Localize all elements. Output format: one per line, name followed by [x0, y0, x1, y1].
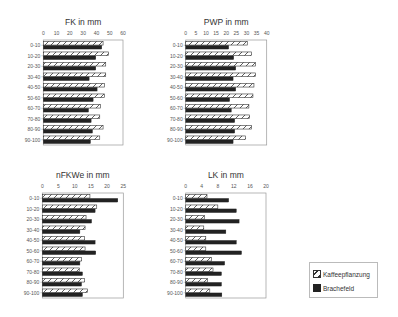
bar-kaffeepflanzung — [186, 205, 218, 209]
bar-brachefeld — [42, 293, 82, 297]
legend: Kaffeepflanzung Brachefeld — [309, 262, 378, 298]
x-tick-label: 15 — [213, 30, 219, 36]
bar-brachefeld — [42, 261, 80, 265]
x-tick-label: 10 — [54, 30, 60, 36]
bar-brachefeld — [43, 77, 89, 81]
y-tick-label: 20-30 — [170, 216, 183, 222]
y-tick-label: 10-20 — [170, 53, 183, 59]
bar-kaffeepflanzung — [186, 289, 210, 293]
x-tick-label: 30 — [244, 30, 250, 36]
chart-title: PWP in mm — [204, 17, 249, 27]
bar-brachefeld — [186, 140, 233, 144]
bar-kaffeepflanzung — [186, 278, 208, 282]
y-tick-label: 0-10 — [29, 195, 39, 201]
bar-kaffeepflanzung — [186, 41, 248, 45]
x-tick-label: 5 — [194, 30, 197, 36]
y-tick-label: 20-30 — [170, 63, 183, 69]
bar-kaffeepflanzung — [43, 41, 103, 45]
y-tick-label: 80-90 — [27, 279, 40, 285]
bar-brachefeld — [42, 272, 82, 276]
y-tick-label: 30-40 — [28, 74, 41, 80]
y-tick-label: 50-60 — [170, 248, 183, 254]
bar-brachefeld — [186, 261, 225, 265]
y-tick-label: 0-10 — [173, 42, 183, 48]
x-tick-label: 20 — [223, 30, 229, 36]
x-tick-label: 0 — [42, 30, 45, 36]
bar-brachefeld — [43, 119, 91, 123]
y-tick-label: 60-70 — [28, 105, 41, 111]
x-tick-label: 0 — [41, 183, 44, 189]
bar-kaffeepflanzung — [42, 215, 86, 219]
y-tick-label: 0-10 — [30, 42, 40, 48]
bar-brachefeld — [43, 87, 97, 91]
bar-kaffeepflanzung — [43, 115, 99, 119]
x-tick-label: 50 — [107, 30, 113, 36]
bar-brachefeld — [186, 209, 237, 213]
bar-brachefeld — [43, 98, 93, 102]
bar-kaffeepflanzung — [186, 136, 246, 140]
y-tick-label: 90-100 — [167, 290, 183, 296]
y-tick-label: 80-90 — [28, 126, 41, 132]
bar-brachefeld — [186, 56, 234, 60]
y-tick-label: 30-40 — [170, 74, 183, 80]
y-tick-label: 30-40 — [170, 227, 183, 233]
bar-brachefeld — [42, 219, 91, 223]
chart-panel: PWP in mm05101520253035400-1010-2020-303… — [167, 17, 270, 145]
bar-kaffeepflanzung — [43, 83, 104, 87]
bar-kaffeepflanzung — [43, 62, 105, 66]
bar-kaffeepflanzung — [43, 52, 108, 56]
bar-kaffeepflanzung — [43, 125, 103, 129]
legend-label: Kaffeepflanzung — [323, 271, 370, 278]
y-tick-label: 80-90 — [170, 279, 183, 285]
y-tick-label: 90-100 — [25, 137, 41, 143]
bar-kaffeepflanzung — [43, 73, 105, 77]
bar-kaffeepflanzung — [42, 289, 87, 293]
bar-brachefeld — [42, 240, 95, 244]
chart-title: LK in mm — [208, 170, 244, 180]
chart-panel: nFKWe in mm05101520250-1010-2020-3030-40… — [24, 170, 127, 298]
bar-kaffeepflanzung — [186, 115, 250, 119]
bar-kaffeepflanzung — [186, 194, 207, 198]
bar-kaffeepflanzung — [186, 226, 204, 230]
bar-brachefeld — [186, 219, 239, 223]
y-tick-label: 10-20 — [28, 53, 41, 59]
bar-kaffeepflanzung — [186, 94, 253, 98]
y-tick-label: 20-30 — [28, 63, 41, 69]
x-tick-label: 20 — [67, 30, 73, 36]
y-tick-label: 70-80 — [170, 116, 183, 122]
y-tick-label: 40-50 — [27, 237, 40, 243]
bar-brachefeld — [43, 140, 90, 144]
bar-brachefeld — [186, 77, 233, 81]
x-tick-label: 0 — [184, 30, 187, 36]
x-tick-label: 20 — [263, 183, 269, 189]
y-tick-label: 70-80 — [28, 116, 41, 122]
bar-brachefeld — [43, 56, 95, 60]
x-tick-label: 30 — [80, 30, 86, 36]
chart-panel: LK in mm0481216200-1010-2020-3030-4040-5… — [167, 170, 269, 298]
bar-kaffeepflanzung — [42, 268, 79, 272]
bar-brachefeld — [186, 230, 226, 234]
x-tick-label: 25 — [234, 30, 240, 36]
bar-brachefeld — [43, 108, 88, 112]
x-tick-label: 60 — [120, 30, 126, 36]
y-tick-label: 40-50 — [170, 84, 183, 90]
x-tick-label: 10 — [72, 183, 78, 189]
bar-kaffeepflanzung — [186, 83, 254, 87]
bar-brachefeld — [186, 293, 222, 297]
bar-kaffeepflanzung — [42, 194, 90, 198]
y-tick-label: 50-60 — [28, 95, 41, 101]
bar-brachefeld — [43, 129, 92, 133]
y-tick-label: 60-70 — [170, 105, 183, 111]
bar-brachefeld — [43, 66, 95, 70]
y-tick-label: 60-70 — [27, 258, 40, 264]
bar-kaffeepflanzung — [186, 268, 213, 272]
hatched-swatch-icon — [313, 270, 321, 278]
bar-kaffeepflanzung — [42, 205, 96, 209]
chart-panel: FK in mm01020304050600-1010-2020-3030-40… — [25, 17, 126, 145]
bar-kaffeepflanzung — [186, 236, 206, 240]
legend-item-brachefeld: Brachefeld — [313, 284, 354, 292]
y-tick-label: 80-90 — [170, 126, 183, 132]
bar-brachefeld — [186, 282, 222, 286]
y-tick-label: 50-60 — [170, 95, 183, 101]
x-tick-label: 10 — [203, 30, 209, 36]
